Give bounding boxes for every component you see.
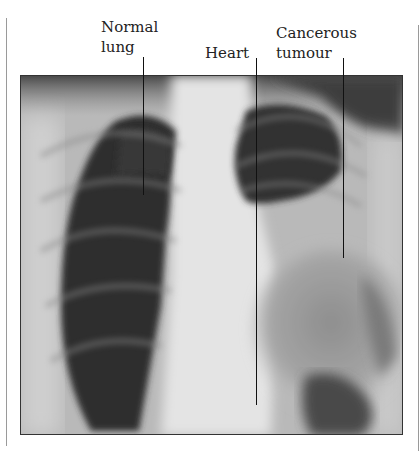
- chest-xray-image: [20, 75, 403, 435]
- leader-line-tumour: [343, 58, 344, 258]
- label-cancerous-tumour: Cancerous tumour: [276, 25, 357, 61]
- left-margin-rule: [6, 18, 7, 446]
- leader-line-normal-lung: [143, 57, 144, 195]
- label-heart: Heart: [205, 45, 249, 61]
- right-margin-rule: [418, 25, 419, 451]
- label-normal-lung-line2: lung: [101, 39, 158, 55]
- label-normal-lung-line1: Normal: [101, 19, 158, 35]
- label-tumour-line2: tumour: [276, 45, 357, 61]
- label-tumour-line1: Cancerous: [276, 25, 357, 41]
- leader-line-heart: [256, 58, 257, 405]
- label-normal-lung: Normal lung: [101, 19, 158, 55]
